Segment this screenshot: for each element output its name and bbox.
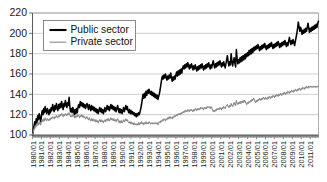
x-axis-tick-label: 1995/01 — [163, 141, 172, 168]
x-axis-tick-label: 1989/01 — [109, 141, 118, 168]
x-axis-tick-label: 1990/01 — [118, 141, 127, 168]
x-axis-tick-label: 2009/01 — [288, 141, 297, 168]
y-axis-tick-label: 160 — [9, 67, 27, 79]
x-axis-tick-label: 1985/01 — [73, 141, 82, 168]
x-axis-tick-label: 1993/01 — [145, 141, 154, 168]
x-axis-tick-label: 1988/01 — [100, 141, 109, 168]
x-axis-tick-label: 1987/01 — [91, 141, 100, 168]
x-axis-tick-label: 1980/01 — [29, 141, 38, 168]
x-axis-labels-group: 1980/011981/011982/011983/011984/011985/… — [29, 141, 316, 168]
x-axis-tick-label: 1984/01 — [64, 141, 73, 168]
y-axis-ticks-group — [29, 13, 33, 135]
legend-label-private-sector: Private sector — [71, 36, 134, 47]
x-axis-minor-ticks-group — [33, 135, 319, 139]
x-axis-tick-label: 1992/01 — [136, 141, 145, 168]
chart-legend: Public sectorPrivate sector — [44, 21, 136, 51]
y-axis-tick-label: 140 — [9, 88, 27, 100]
x-axis-tick-label: 2010/01 — [297, 141, 306, 168]
x-axis-tick-label: 1997/01 — [181, 141, 190, 168]
x-axis-tick-label: 2002/01 — [226, 141, 235, 168]
y-axis-labels-group: 100120140160180200220 — [9, 6, 27, 140]
x-axis-tick-label: 1999/01 — [199, 141, 208, 168]
x-axis-tick-label: 1994/01 — [154, 141, 163, 168]
y-axis-tick-label: 100 — [9, 128, 27, 140]
y-axis-tick-label: 180 — [9, 47, 27, 59]
x-axis-tick-label: 2000/01 — [208, 141, 217, 168]
x-axis-tick-label: 2001/01 — [217, 141, 226, 168]
line-chart: 100120140160180200220 1980/011981/011982… — [0, 0, 327, 182]
legend-label-public-sector: Public sector — [71, 24, 130, 35]
x-axis-tick-label: 1983/01 — [55, 141, 64, 168]
x-axis-tick-label: 2011/01 — [306, 141, 315, 167]
x-axis-tick-label: 1981/01 — [37, 141, 46, 168]
x-axis-tick-label: 2008/01 — [279, 141, 288, 168]
x-axis-tick-label: 2004/01 — [244, 141, 253, 168]
x-axis-tick-label: 2005/01 — [253, 141, 262, 168]
y-axis-tick-label: 220 — [9, 6, 27, 18]
x-axis-tick-label: 2007/01 — [270, 141, 279, 168]
x-axis-tick-label: 2003/01 — [235, 141, 244, 168]
y-axis-tick-label: 200 — [9, 27, 27, 39]
x-axis-tick-label: 1982/01 — [46, 141, 55, 168]
x-axis-tick-label: 1991/01 — [127, 141, 136, 168]
chart-container: 100120140160180200220 1980/011981/011982… — [0, 0, 327, 182]
x-axis-tick-label: 2006/01 — [261, 141, 270, 168]
x-axis-tick-label: 1996/01 — [172, 141, 181, 168]
x-axis-tick-label: 1998/01 — [190, 141, 199, 168]
y-axis-tick-label: 120 — [9, 108, 27, 120]
x-axis-tick-label: 1986/01 — [82, 141, 91, 168]
